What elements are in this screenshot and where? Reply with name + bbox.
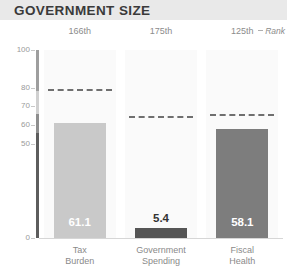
y-axis-tick (31, 238, 35, 239)
y-axis-spine-segment (36, 91, 39, 114)
reference-line (210, 114, 274, 116)
y-axis-tick (31, 106, 35, 107)
y-axis-spine-segment (36, 133, 39, 238)
bar-value-label: 58.1 (216, 216, 268, 228)
y-axis-tick-label: 100 (8, 45, 30, 54)
x-axis-category-label: FiscalHealth (206, 245, 278, 266)
bar-value-label: 5.4 (135, 212, 187, 224)
reference-line (48, 89, 112, 91)
category-label-line: Spending (125, 256, 197, 267)
reference-line (129, 116, 193, 118)
y-axis-tick (31, 144, 35, 145)
y-axis-spine-segment (36, 114, 39, 133)
y-axis-tick (31, 88, 35, 89)
column-band (125, 50, 197, 238)
y-axis-tick-label: 0 (8, 233, 30, 242)
x-axis-baseline (39, 238, 283, 239)
y-axis-tick-label: 50 (8, 139, 30, 148)
bar[interactable] (135, 228, 187, 238)
chart-plot-area: 10080706050061.1TaxBurden5.4GovernmentSp… (0, 0, 287, 276)
category-label-line: Tax (44, 245, 116, 256)
y-axis-tick (31, 125, 35, 126)
y-axis-tick-label: 70 (8, 101, 30, 110)
bar-value-label: 61.1 (54, 216, 106, 228)
y-axis-tick (31, 50, 35, 51)
x-axis-category-label: TaxBurden (44, 245, 116, 266)
category-label-line: Health (206, 256, 278, 267)
category-label-line: Fiscal (206, 245, 278, 256)
y-axis-spine-segment (36, 50, 39, 91)
y-axis-tick-label: 80 (8, 83, 30, 92)
y-axis-tick-label: 60 (8, 120, 30, 129)
category-label-line: Burden (44, 256, 116, 267)
x-axis-category-label: GovernmentSpending (125, 245, 197, 266)
category-label-line: Government (125, 245, 197, 256)
